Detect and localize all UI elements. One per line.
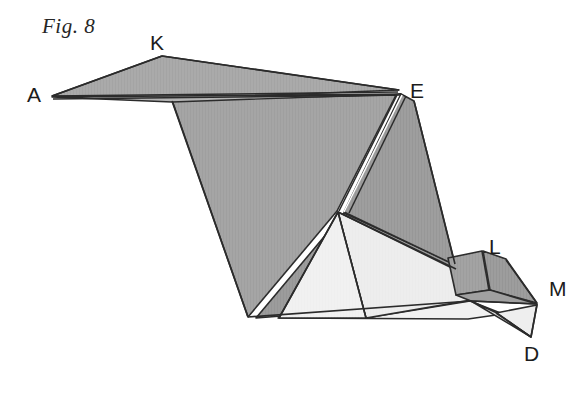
vertex-label-M: M	[549, 278, 567, 299]
vertex-label-A: A	[27, 84, 41, 105]
vertex-label-D: D	[524, 343, 539, 364]
figure-drawing	[0, 0, 588, 407]
vertex-label-E: E	[410, 80, 424, 101]
face-D-triangle	[496, 305, 537, 337]
vertex-label-K: K	[150, 32, 164, 53]
vertex-label-L: L	[489, 236, 501, 257]
figure-caption: Fig. 8	[42, 14, 95, 39]
figure-page: Fig. 8 A K E L M D	[0, 0, 588, 407]
